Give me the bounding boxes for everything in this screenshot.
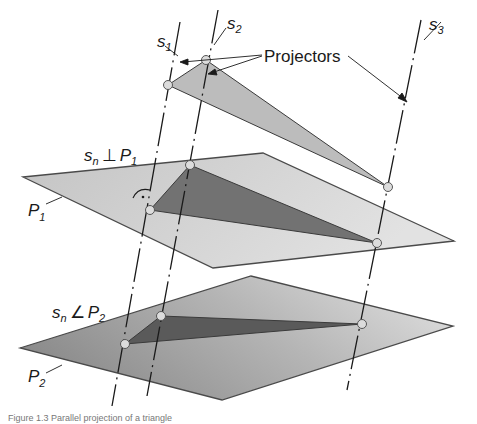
relation-perpendicular: sn⊥P1 [84,146,137,167]
label-p1: P1 [28,201,45,223]
label-p2: P2 [28,367,45,389]
projectors-label: Projectors [264,47,341,66]
relation-oblique: sn∠P2 [52,303,105,324]
figure-caption: Figure 1.3 Parallel projection of a tria… [8,413,172,423]
vertex-a1 [164,81,173,90]
vertex-b2 [186,161,195,170]
parallel-projection-diagram: Projectors s1 s2 s3 sn⊥P1 P1 sn∠P2 P2 Fi… [0,0,477,424]
vertex-c2 [157,312,166,321]
plane-p2 [20,276,453,400]
vertex-b1 [146,206,155,215]
vertex-a3 [384,183,393,192]
vertex-c1 [121,340,130,349]
vertex-c3 [358,320,367,329]
label-s2: s2 [227,14,242,35]
vertex-b3 [373,239,382,248]
label-s3: s3 [429,15,445,36]
label-s1: s1 [157,32,172,53]
